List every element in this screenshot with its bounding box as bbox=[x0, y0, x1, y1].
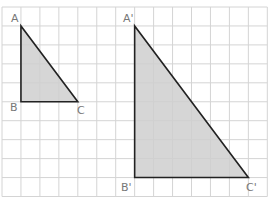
similar-triangles-diagram: A B C A' B' C' bbox=[0, 0, 270, 204]
label-a-prime: A' bbox=[123, 12, 134, 25]
label-b-prime: B' bbox=[121, 181, 132, 194]
label-c: C bbox=[77, 104, 85, 117]
label-a: A bbox=[11, 12, 19, 25]
label-b: B bbox=[10, 101, 18, 114]
label-c-prime: C' bbox=[246, 181, 257, 194]
